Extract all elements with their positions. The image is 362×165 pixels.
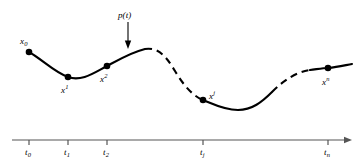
sample-point-dot-x1 [65, 74, 72, 81]
curve-segment-solid-1 [29, 49, 145, 78]
axis-tick-label-t1: t1 [64, 148, 70, 157]
sample-point-dot-x2 [104, 63, 111, 70]
p-of-t-pointer-arrow [125, 22, 131, 49]
axis-tick-label-t2: t2 [103, 148, 109, 157]
time-axis-group [12, 137, 352, 145]
axis-tick-label-tj: tj [200, 148, 205, 157]
sample-point-dot-x0 [26, 49, 33, 56]
point-label-x2: x2 [100, 75, 107, 84]
time-axis-arrowhead [344, 137, 352, 143]
curve-segment-dashed-2 [272, 70, 310, 92]
axis-tick-label-tn: tn [324, 148, 330, 157]
sample-points-group [26, 49, 332, 104]
p-of-t-label: p(t) [118, 11, 131, 20]
diagram-canvas [0, 0, 362, 165]
curve-diagram-figure: p(t) x0x1x2xjxnt0t1t2tjtn [0, 0, 362, 165]
curve-group [29, 49, 352, 110]
point-label-xn: xn [322, 78, 329, 87]
curve-segment-dashed-1 [145, 49, 203, 100]
point-label-x1: x1 [61, 86, 68, 95]
point-label-xj: xj [209, 92, 215, 101]
point-label-x0: x0 [20, 37, 27, 46]
axis-tick-label-t0: t0 [25, 148, 31, 157]
sample-point-dot-xj [200, 97, 207, 104]
sample-point-dot-xn [325, 65, 332, 72]
